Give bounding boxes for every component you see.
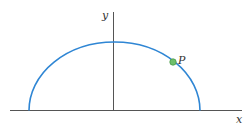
point-p-label: P [177, 54, 186, 67]
y-axis-label: y [101, 9, 109, 22]
x-axis-label: x [236, 113, 243, 126]
semi-ellipse-curve [29, 42, 200, 111]
point-p [170, 59, 176, 65]
semi-ellipse-diagram: y P x [0, 0, 247, 126]
